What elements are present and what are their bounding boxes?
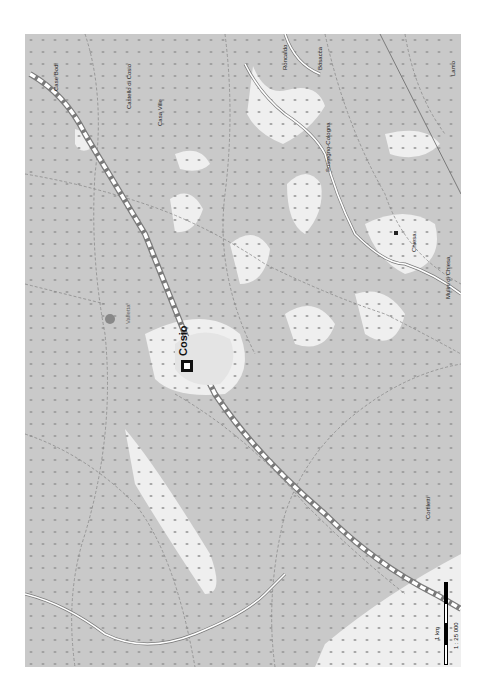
map-canvas [25, 34, 461, 667]
place-label: Lamo [450, 61, 456, 76]
topographic-map[interactable]: Cosio Case Bodi Castello di Cosio Casa V… [25, 34, 461, 667]
town-label-cosio: Cosio [177, 325, 189, 356]
place-label: Cortiletti [425, 497, 431, 519]
place-label: Bosacca [317, 47, 323, 70]
place-label: Casa Ville [157, 99, 163, 126]
scale-bar [444, 582, 450, 665]
place-label: Valletta [125, 304, 131, 324]
place-label: Chiesa [411, 233, 417, 252]
scale-ratio-label: 1 : 25 000 [453, 622, 459, 649]
place-label: Castello di Cosio [126, 64, 132, 109]
place-label: Mulini di Chiesa [445, 257, 451, 299]
village-marker-icon [394, 231, 398, 235]
hamlet-icon [105, 314, 115, 324]
place-label: Roncaldo [282, 45, 288, 70]
place-label: Case Bodi [53, 63, 59, 91]
place-label: Sostegno-Cologna [325, 122, 331, 172]
scale-distance-label: 1 km [434, 627, 440, 640]
